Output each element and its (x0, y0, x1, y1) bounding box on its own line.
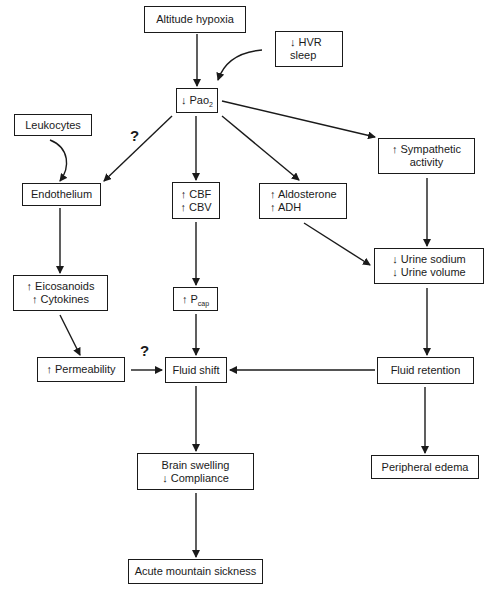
node-hvr-sleep: ↓ HVR sleep (275, 31, 343, 67)
node-label: ↓ Pao2 (181, 94, 213, 107)
node-label: ↓ Urine sodium (392, 253, 465, 266)
node-brain-swelling: Brain swelling ↓ Compliance (137, 453, 254, 490)
pcap-prefix: ↑ P (182, 293, 198, 305)
pcap-subscript: cap (198, 300, 209, 307)
node-label: ↑ CBF (181, 188, 212, 201)
node-label: Endothelium (31, 188, 92, 201)
node-pcap: ↑ Pcap (173, 287, 218, 311)
node-pao2: ↓ Pao2 (176, 88, 218, 113)
node-label: ↑ Aldosterone (270, 188, 337, 201)
node-endothelium: Endothelium (22, 183, 101, 206)
node-fluid-retention: Fluid retention (377, 357, 474, 384)
edge-pao2-aldosterone (222, 116, 299, 180)
edge-pao2-sympathetic (222, 101, 375, 137)
node-label: ↑ Permeability (46, 363, 115, 376)
node-peripheral-edema: Peripheral edema (371, 455, 479, 479)
edge-aldosterone-urine (304, 223, 370, 265)
node-cbf-cbv: ↑ CBF ↑ CBV (172, 182, 220, 219)
node-label: ↑ Cytokines (32, 293, 89, 306)
node-label: ↑ Pcap (182, 293, 209, 306)
node-fluid-shift: Fluid shift (165, 357, 227, 383)
node-eicosanoids-cytokines: ↑ Eicosanoids ↑ Cytokines (13, 275, 108, 311)
node-label: ↑ Sympathetic (392, 143, 461, 156)
node-label: ↓ HVR (290, 36, 322, 49)
pao2-subscript: 2 (209, 101, 213, 108)
node-label: ↑ Eicosanoids (27, 280, 95, 293)
node-leukocytes: Leukocytes (14, 114, 92, 136)
node-sympathetic-activity: ↑ Sympathetic activity (378, 138, 475, 174)
node-label: Fluid retention (391, 364, 461, 377)
node-permeability: ↑ Permeability (37, 357, 125, 382)
node-label: Peripheral edema (382, 461, 469, 474)
edge-hvr-pao2 (218, 50, 262, 80)
pao2-prefix: ↓ Pao (181, 94, 209, 106)
node-label: Brain swelling (162, 459, 230, 472)
node-label: ↑ CBV (180, 201, 211, 214)
edge-eicosanoids-permeability (60, 315, 80, 355)
node-label: Acute mountain sickness (135, 565, 257, 578)
node-label: ↓ Urine volume (392, 266, 465, 279)
node-acute-mountain-sickness: Acute mountain sickness (128, 559, 263, 584)
edge-pao2-endothelium (104, 116, 172, 181)
question-mark-annotation: ? (140, 342, 149, 359)
node-label: sleep (290, 49, 316, 62)
node-label: Leukocytes (25, 119, 81, 132)
edge-leukocytes-endothelium (50, 140, 67, 181)
node-urine: ↓ Urine sodium ↓ Urine volume (374, 248, 484, 284)
node-label: ↑ ADH (270, 201, 301, 214)
node-label: activity (410, 156, 444, 169)
flow-diagram: Altitude hypoxia ↓ HVR sleep ↓ Pao2 Leuk… (0, 0, 490, 594)
node-label: Fluid shift (172, 364, 219, 377)
question-mark-annotation: ? (130, 127, 139, 144)
node-aldosterone-adh: ↑ Aldosterone ↑ ADH (259, 183, 347, 219)
node-label: Altitude hypoxia (156, 13, 234, 26)
node-altitude-hypoxia: Altitude hypoxia (144, 6, 246, 33)
node-label: ↓ Compliance (162, 472, 229, 485)
